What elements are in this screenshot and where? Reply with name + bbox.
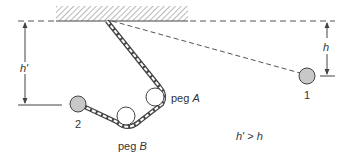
peg-a-label: peg A bbox=[171, 92, 200, 104]
ceiling-hatch bbox=[56, 6, 188, 21]
ball-1-label: 1 bbox=[304, 89, 310, 101]
pendulum-diagram: h′ h 1 2 peg A peg B h′ > h bbox=[0, 0, 351, 162]
ball-2-label: 2 bbox=[75, 118, 81, 130]
peg-a bbox=[146, 88, 164, 106]
peg-b-label: peg B bbox=[118, 140, 147, 152]
h-label: h bbox=[323, 41, 329, 53]
ball-1 bbox=[299, 68, 315, 84]
relation-label: h′ > h bbox=[236, 130, 263, 142]
h-prime-label: h′ bbox=[20, 62, 29, 74]
ball-2 bbox=[70, 96, 86, 112]
peg-b bbox=[117, 107, 135, 125]
